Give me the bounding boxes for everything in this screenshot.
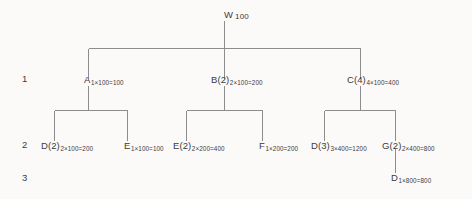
node-E2-sub: 2×200=400 (192, 145, 225, 152)
node-E-name: E (124, 140, 130, 151)
node-G2: G(2)2×400=800 (382, 140, 435, 154)
node-E-sub: 1×100=100 (131, 145, 164, 152)
node-G2-sub: 2×400=800 (402, 145, 435, 152)
node-D3: D(3)3×400=1200 (311, 140, 367, 154)
node-E2-name: E(2) (173, 140, 191, 151)
node-C: C(4)4×100=400 (347, 74, 399, 88)
node-C-sub: 4×100=400 (366, 79, 399, 86)
node-W-name: W (224, 9, 233, 20)
level-label-2: 2 (22, 139, 27, 150)
level-label-3: 3 (22, 172, 27, 183)
node-D3-sub: 3×400=1200 (330, 145, 366, 152)
node-F-sub: 1×200=200 (265, 145, 298, 152)
node-A-name: A (84, 74, 90, 85)
tree-edges (0, 0, 472, 199)
node-G2-name: G(2) (382, 140, 401, 151)
node-D3-name: D(3) (311, 140, 330, 151)
node-A-sub: 1×100=100 (91, 79, 124, 86)
node-D-bottom-sub: 1×800=800 (398, 177, 431, 184)
node-W: W100 (224, 9, 249, 22)
node-B-sub: 2×100=200 (230, 79, 263, 86)
node-F: F1×200=200 (259, 140, 298, 154)
node-D2-name: D(2) (41, 140, 60, 151)
node-D-bottom: D1×800=800 (391, 172, 431, 186)
bom-tree-diagram: 1 2 3 W100 A1×100=100 B(2)2×100=200 C(4)… (0, 0, 472, 199)
node-B-name: B(2) (211, 74, 229, 85)
node-D-bottom-name: D (391, 172, 398, 183)
level-label-1: 1 (22, 73, 27, 84)
node-E2: E(2)2×200=400 (173, 140, 225, 154)
node-D2-sub: 2×100=200 (60, 145, 93, 152)
node-A: A1×100=100 (84, 74, 124, 88)
node-W-sub: 100 (235, 12, 249, 21)
node-D2: D(2)2×100=200 (41, 140, 93, 154)
node-C-name: C(4) (347, 74, 366, 85)
node-B: B(2)2×100=200 (211, 74, 263, 88)
node-E: E1×100=100 (124, 140, 164, 154)
